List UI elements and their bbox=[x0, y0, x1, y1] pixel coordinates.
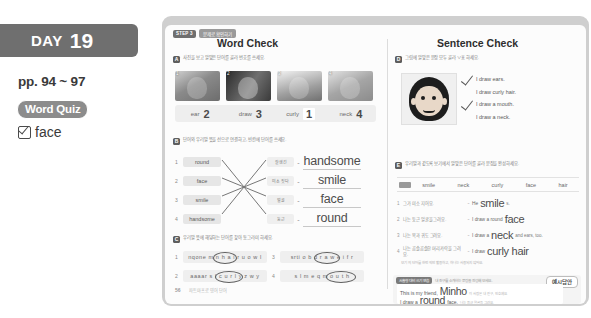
match-answer: round bbox=[303, 211, 361, 227]
eye-left-shape bbox=[421, 96, 425, 100]
page-range: pp. 94 ~ 97 bbox=[18, 74, 85, 89]
row-korean: 나는 곱슬곱슬한 머리카락을 그려요. bbox=[403, 245, 465, 257]
scramble-row: 1 nqone m n h a i r u o w l 3 srti o b d… bbox=[175, 251, 380, 263]
fill-row[interactable]: 1 그가 미소 지어요. - He smile s. bbox=[397, 195, 581, 211]
row-answer: curly hair bbox=[485, 245, 531, 257]
row-index: 3 bbox=[175, 197, 183, 203]
section-c-rows: 1 nqone m n h a i r u o w l 3 srti o b d… bbox=[175, 251, 380, 289]
section-a-pictures: 1 2 3 4 bbox=[175, 71, 373, 101]
lesson-sidebar: DAY 19 pp. 94 ~ 97 Word Quiz face bbox=[0, 0, 165, 318]
quiz-item-face[interactable]: face bbox=[18, 124, 61, 140]
match-korean: 잘생긴 bbox=[267, 157, 294, 167]
row-before: I draw bbox=[472, 249, 485, 254]
bank-word[interactable]: neck bbox=[458, 182, 470, 188]
bank-word[interactable]: curly bbox=[492, 182, 504, 188]
section-e-letter: E bbox=[395, 162, 402, 169]
writing-instruction: 내 친구를 소개하는 문장을 완성해 보세요. bbox=[435, 278, 492, 283]
answer-cell[interactable]: ear 2 bbox=[175, 108, 225, 120]
scramble-item[interactable]: 3 srti o b d r a w e i f r bbox=[272, 251, 364, 263]
scramble-letters: aaaar s l c u r l y z w y bbox=[183, 270, 267, 282]
row-index: 2 bbox=[175, 178, 183, 184]
section-e-header: E 우리말과 같도록 보기에서 알맞은 단어를 골라 문장을 완성하세요. bbox=[395, 161, 580, 169]
answer-word: ear bbox=[191, 111, 200, 117]
bank-word[interactable]: smile bbox=[422, 182, 435, 188]
row-index: 4 bbox=[175, 216, 183, 222]
sentence-option[interactable]: I draw a neck. bbox=[461, 111, 581, 124]
picture-4: 4 bbox=[328, 71, 373, 101]
fill-row[interactable]: 3 나는 목과 귀도 그려요. - I draw a neck and ears… bbox=[397, 227, 581, 243]
sentence-option[interactable]: I draw a mouth. bbox=[461, 98, 581, 111]
match-word: handsome bbox=[183, 214, 221, 224]
face-illustration bbox=[401, 73, 457, 125]
bank-word[interactable]: face bbox=[526, 182, 536, 188]
section-c-instruction: 우리말 뜻에 해당하는 단어를 찾아 동그라미 하세요. bbox=[183, 235, 273, 241]
writing-after: face. bbox=[447, 299, 458, 304]
section-b-letter: B bbox=[173, 138, 180, 145]
answer-number: 1 bbox=[303, 108, 315, 120]
writing-line: This is my friend, Minho 이 사람은 내 친구, 민호예… bbox=[400, 285, 560, 294]
answer-cell[interactable]: curly 1 bbox=[276, 108, 326, 120]
word-bank-label bbox=[399, 182, 411, 188]
word-bank-words: smile neck curly face hair bbox=[411, 182, 579, 188]
picture-3-number: 3 bbox=[278, 71, 281, 76]
checkmark-slot bbox=[461, 86, 472, 97]
worksheet-card: STEP 3 문제로 확인하기 Word Check Sentence Chec… bbox=[162, 16, 589, 306]
section-d-sentences: I draw ears. I draw curly hair. I draw a… bbox=[461, 73, 581, 123]
match-row[interactable]: 3 smile 얼굴 - face bbox=[175, 191, 380, 209]
section-b-rows: 1 round 잘생긴 - handsome 2 face 미소 짓다 - sm… bbox=[175, 153, 380, 229]
section-b-header: B 단어와 우리말 뜻을 선으로 연결하고, 빈칸에 단어를 쓰세요. bbox=[173, 137, 378, 145]
answer-cell[interactable]: neck 4 bbox=[326, 108, 376, 120]
section-c-letter: C bbox=[173, 236, 180, 243]
checkmark-icon bbox=[461, 99, 472, 110]
section-d-instruction: 그림에 알맞은 문장 모두 골라 ∨표 하세요. bbox=[405, 55, 479, 61]
sentence-text: I draw ears. bbox=[476, 76, 505, 82]
checkbox-checked-icon bbox=[18, 126, 31, 139]
dash: - bbox=[465, 200, 472, 206]
match-row[interactable]: 1 round 잘생긴 - handsome bbox=[175, 153, 380, 171]
scramble-letters: srti o b d r a w e i f r bbox=[280, 251, 364, 263]
writing-lines[interactable]: This is my friend, Minho 이 사람은 내 친구, 민호예… bbox=[397, 284, 563, 304]
section-d-letter: D bbox=[395, 56, 402, 63]
writing-practice-box: 서술형 대비 쓰기 연습 내 친구를 소개하는 문장을 완성해 보세요. 예시답… bbox=[393, 275, 581, 304]
page-number-left: 56 bbox=[175, 287, 181, 293]
answer-word: draw bbox=[239, 111, 252, 117]
scramble-letters: nqone m n h a i r u o w l bbox=[183, 251, 267, 263]
scramble-row: 2 aaaar s l c u r l y z w y 4 s l m e q … bbox=[175, 270, 380, 282]
circle-curly-icon bbox=[215, 271, 243, 283]
section-a-instruction: 사진을 보고 알맞은 단어를 골라 번호를 쓰세요. bbox=[183, 55, 265, 61]
day-banner: DAY 19 bbox=[0, 24, 138, 57]
row-after: s. bbox=[506, 201, 510, 206]
row-index: 4 bbox=[272, 273, 277, 279]
match-word: smile bbox=[183, 195, 221, 205]
row-before: I draw a round bbox=[472, 217, 503, 222]
match-korean: 둥근 bbox=[267, 214, 294, 224]
word-quiz-badge: Word Quiz bbox=[17, 100, 88, 119]
step-chip-label: STEP 3 bbox=[173, 30, 196, 38]
row-korean: 나는 둥근 얼굴을 그려요. bbox=[403, 216, 465, 222]
match-korean: 미소 짓다 bbox=[267, 176, 294, 186]
writing-note: 나는 둥근 얼굴을 그려요. bbox=[460, 300, 494, 304]
scramble-item[interactable]: 4 s l m e q m o u t h bbox=[272, 270, 364, 282]
row-before: I draw a bbox=[472, 233, 489, 238]
match-word: round bbox=[183, 157, 221, 167]
section-e-rows: 1 그가 미소 지어요. - He smile s. 2 나는 둥근 얼굴을 그… bbox=[397, 195, 581, 259]
scramble-item[interactable]: 1 nqone m n h a i r u o w l bbox=[175, 251, 267, 263]
answer-cell[interactable]: draw 3 bbox=[225, 108, 275, 120]
fill-row[interactable]: 2 나는 둥근 얼굴을 그려요. - I draw a round face bbox=[397, 211, 581, 227]
row-index: 1 bbox=[175, 254, 180, 260]
bank-word[interactable]: hair bbox=[559, 182, 568, 188]
scramble-item[interactable]: 2 aaaar s l c u r l y z w y bbox=[175, 270, 267, 282]
dash: - bbox=[294, 159, 303, 166]
section-e-instruction: 우리말과 같도록 보기에서 알맞은 단어를 골라 문장을 완성하세요. bbox=[405, 161, 519, 167]
section-a-letter: A bbox=[173, 56, 180, 63]
section-a-answer-bar: ear 2 draw 3 curly 1 neck 4 bbox=[175, 105, 376, 122]
row-answer: smile bbox=[478, 197, 506, 209]
dash: - bbox=[294, 216, 303, 223]
fill-row[interactable]: 4 나는 곱슬곱슬한 머리카락을 그려요. - I draw curly hai… bbox=[397, 243, 581, 259]
sentence-option[interactable]: I draw curly hair. bbox=[461, 86, 581, 99]
answer-number: 2 bbox=[203, 108, 209, 120]
sentence-option[interactable]: I draw ears. bbox=[461, 73, 581, 86]
picture-1: 1 bbox=[175, 71, 220, 101]
match-row[interactable]: 2 face 미소 짓다 - smile bbox=[175, 172, 380, 190]
match-row[interactable]: 4 handsome 둥근 - round bbox=[175, 210, 380, 228]
